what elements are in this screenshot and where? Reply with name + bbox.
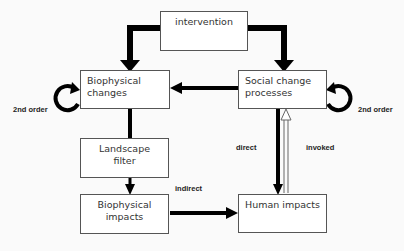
- node-biophysical-impacts-label: Biophysical impacts: [98, 199, 152, 222]
- node-landscape-filter-label: Landscape filter: [99, 143, 150, 166]
- node-human-impacts-label: Human impacts: [245, 199, 320, 210]
- label-direct: direct: [236, 143, 256, 152]
- node-human-impacts: Human impacts: [238, 194, 327, 233]
- label-2nd-order-left: 2nd order: [13, 105, 48, 114]
- node-intervention: intervention: [160, 11, 248, 51]
- node-intervention-label: intervention: [175, 16, 233, 27]
- label-invoked: invoked: [306, 143, 334, 152]
- node-biophysical-impacts: Biophysical impacts: [80, 194, 169, 234]
- label-indirect: indirect: [175, 184, 202, 193]
- label-2nd-order-right: 2nd order: [358, 105, 393, 114]
- node-social-change-processes: Social change processes: [238, 70, 327, 109]
- node-social-change-label: Social change processes: [245, 75, 311, 98]
- node-landscape-filter: Landscape filter: [80, 138, 169, 178]
- node-biophysical-changes-label: Biophysical changes: [87, 75, 141, 98]
- node-biophysical-changes: Biophysical changes: [80, 70, 170, 109]
